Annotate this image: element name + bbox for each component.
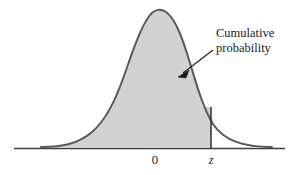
- cumulative-probability-annotation: Cumulative probability: [216, 26, 274, 55]
- cumulative-probability-shaded-area: [41, 10, 211, 147]
- normal-distribution-figure: Cumulative probability 0 z: [0, 0, 293, 175]
- annotation-line-1: Cumulative: [216, 26, 274, 41]
- axis-tick-label-zero: 0: [147, 152, 163, 168]
- axis-tick-label-z: z: [204, 153, 218, 168]
- annotation-line-2: probability: [216, 41, 274, 56]
